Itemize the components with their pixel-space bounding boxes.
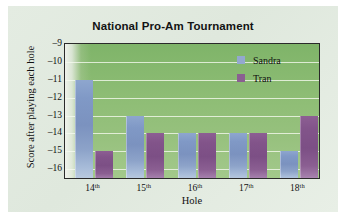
bar-sandra-15th — [126, 116, 144, 179]
legend-swatch-icon — [237, 74, 245, 82]
y-tick-label: –16 — [36, 163, 62, 173]
chart-legend: SandraTran — [237, 52, 319, 88]
bar-sandra-16th — [178, 133, 196, 179]
chart-title: National Pro-Am Tournament — [8, 20, 338, 32]
y-tick-label: –11 — [36, 74, 62, 84]
x-tick-label: 17th — [239, 182, 254, 193]
legend-item-sandra: Sandra — [237, 52, 319, 68]
x-tick-label: 16th — [188, 182, 203, 193]
x-tick-label: 14th — [85, 182, 100, 193]
bar-tran-16th — [198, 133, 216, 179]
legend-label: Sandra — [253, 55, 281, 66]
plot-area: SandraTran — [64, 43, 320, 179]
legend-swatch-icon — [237, 56, 245, 64]
bar-tran-14th — [95, 151, 113, 179]
x-tick-label: 15th — [137, 182, 152, 193]
x-tick-label: 18th — [290, 182, 305, 193]
bar-sandra-18th — [280, 151, 298, 179]
x-axis-title: Hole — [64, 195, 320, 206]
y-axis-title-text: Score after playing each hole — [25, 45, 36, 167]
legend-item-tran: Tran — [237, 70, 319, 86]
y-tick-label: –15 — [36, 145, 62, 155]
bar-sandra-17th — [229, 133, 247, 179]
y-tick-label: –9 — [36, 38, 62, 48]
bar-tran-17th — [249, 133, 267, 179]
bar-sandra-14th — [75, 80, 93, 179]
y-axis-ticks: –9–10–11–12–13–14–15–16 — [36, 37, 62, 179]
y-tick-label: –10 — [36, 56, 62, 66]
y-tick-label: –12 — [36, 92, 62, 102]
y-tick-label: –13 — [36, 110, 62, 120]
legend-label: Tran — [253, 73, 272, 84]
y-tick-label: –14 — [36, 127, 62, 137]
bar-tran-18th — [300, 116, 318, 179]
chart-figure: National Pro-Am Tournament Score after p… — [8, 6, 338, 212]
bar-tran-15th — [146, 133, 164, 179]
x-axis-ticks: 14th15th16th17th18th — [64, 182, 320, 196]
